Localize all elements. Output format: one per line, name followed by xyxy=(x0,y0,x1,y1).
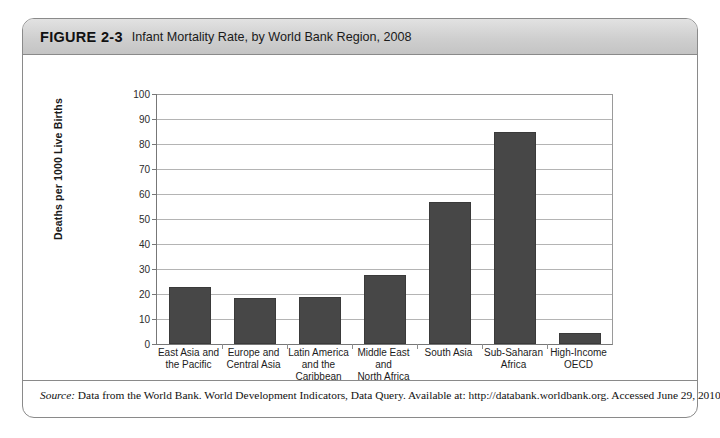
x-axis-label: Middle EastandNorth Africa xyxy=(351,347,416,380)
y-tick-label: 30 xyxy=(139,264,150,275)
y-tick-label: 40 xyxy=(139,239,150,250)
figure-header: FIGURE 2-3 Infant Mortality Rate, by Wor… xyxy=(23,19,697,55)
x-label-line: Caribbean xyxy=(295,371,341,380)
x-label-line: Sub-Saharan xyxy=(484,347,543,358)
bar-slot xyxy=(417,94,482,344)
bar[interactable] xyxy=(234,298,276,344)
y-tick-label: 80 xyxy=(139,139,150,150)
chart-body: Deaths per 1000 Live Births 010203040506… xyxy=(23,55,697,380)
figure-number: FIGURE 2-3 xyxy=(40,29,123,45)
plot-area: 0102030405060708090100 xyxy=(156,94,613,345)
x-label-line: Middle East xyxy=(357,347,409,358)
x-axis-label: Europe andCentral Asia xyxy=(221,347,286,371)
y-tick-label: 100 xyxy=(133,89,150,100)
y-tick-mark xyxy=(152,344,157,345)
x-label-line: High-Income xyxy=(550,347,607,358)
source-text: Data from the World Bank. World Developm… xyxy=(75,389,720,401)
x-label-line: Africa xyxy=(501,359,527,370)
bar-slot xyxy=(287,94,352,344)
x-label-line: Central Asia xyxy=(227,359,281,370)
bar[interactable] xyxy=(299,297,341,345)
bars-layer xyxy=(157,94,612,344)
x-label-line: and the xyxy=(302,359,335,370)
bar[interactable] xyxy=(364,275,406,344)
bar-slot xyxy=(157,94,222,344)
source-note: Source: Data from the World Bank. World … xyxy=(40,389,683,401)
figure-frame: FIGURE 2-3 Infant Mortality Rate, by Wor… xyxy=(22,18,698,418)
x-label-line: Latin America xyxy=(288,347,349,358)
x-label-line: South Asia xyxy=(425,347,473,358)
y-tick-label: 90 xyxy=(139,114,150,125)
x-label-line: OECD xyxy=(564,359,593,370)
x-axis-label: Latin Americaand theCaribbean xyxy=(286,347,351,380)
y-axis-title: Deaths per 1000 Live Births xyxy=(52,77,64,262)
bar-slot xyxy=(547,94,612,344)
y-tick-label: 10 xyxy=(139,314,150,325)
x-axis-labels: East Asia andthe PacificEurope andCentra… xyxy=(156,347,611,380)
x-axis-label: South Asia xyxy=(416,347,481,359)
y-tick-label: 20 xyxy=(139,289,150,300)
x-label-line: the Pacific xyxy=(165,359,211,370)
y-tick-label: 50 xyxy=(139,214,150,225)
x-label-line: East Asia and xyxy=(158,347,219,358)
bar-slot xyxy=(352,94,417,344)
x-label-line: Europe and xyxy=(228,347,280,358)
x-axis-label: Sub-SaharanAfrica xyxy=(481,347,546,371)
figure-caption: Infant Mortality Rate, by World Bank Reg… xyxy=(132,30,412,44)
bar[interactable] xyxy=(169,287,211,345)
bar[interactable] xyxy=(429,202,471,345)
bar[interactable] xyxy=(494,132,536,345)
y-tick-label: 60 xyxy=(139,189,150,200)
y-tick-label: 70 xyxy=(139,164,150,175)
source-divider xyxy=(23,380,697,381)
bar[interactable] xyxy=(559,333,601,344)
x-axis-label: High-IncomeOECD xyxy=(546,347,611,371)
x-axis-label: East Asia andthe Pacific xyxy=(156,347,221,371)
y-tick-label: 0 xyxy=(144,339,150,350)
x-label-line: North Africa xyxy=(357,371,409,380)
bar-slot xyxy=(222,94,287,344)
source-label: Source: xyxy=(40,389,75,401)
bar-slot xyxy=(482,94,547,344)
x-label-line: and xyxy=(375,359,392,370)
